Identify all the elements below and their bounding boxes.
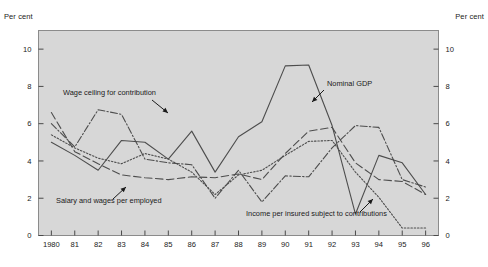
annotation-label-income-insured: Income per insured subject to contributi…	[246, 209, 387, 218]
y-tick-label-right: 8	[446, 82, 450, 91]
y-tick-label-left: 0	[27, 231, 31, 240]
y-tick-label-right: 6	[446, 119, 450, 128]
x-tick-label: 84	[141, 240, 149, 249]
chart-svg: 0246810 0246810 198081828384858687888990…	[0, 0, 488, 267]
x-tick-label: 90	[281, 240, 289, 249]
x-tick-label: 85	[164, 240, 172, 249]
x-tick-label: 86	[187, 240, 195, 249]
x-tick-label: 92	[328, 240, 336, 249]
x-tick-label: 91	[304, 240, 312, 249]
x-tick-label: 89	[258, 240, 266, 249]
y-tick-label-left: 10	[23, 45, 31, 54]
annotation-label-nominal-gdp: Nominal GDP	[327, 79, 372, 88]
x-tick-label: 88	[234, 240, 242, 249]
x-tick-label: 1980	[43, 240, 60, 249]
y-tick-label-left: 8	[27, 82, 31, 91]
y-tick-label-right: 2	[446, 194, 450, 203]
chart-root: Per cent Per cent 0246810 0246810 198081…	[0, 0, 488, 267]
y-tick-label-left: 6	[27, 119, 31, 128]
y-tick-label-left: 2	[27, 194, 31, 203]
y-tick-label-right: 0	[446, 231, 450, 240]
x-tick-label: 87	[211, 240, 219, 249]
x-tick-label: 81	[71, 240, 79, 249]
y-tick-label-left: 4	[27, 157, 31, 166]
y-tick-label-right: 10	[446, 45, 454, 54]
x-tick-label: 93	[351, 240, 359, 249]
x-tick-label: 95	[398, 240, 406, 249]
y-tick-label-right: 4	[446, 157, 450, 166]
x-tick-label: 96	[421, 240, 429, 249]
x-tick-label: 94	[375, 240, 383, 249]
x-tick-label: 83	[117, 240, 125, 249]
annotation-label-salary-wages: Salary and wages per employed	[56, 196, 162, 205]
x-tick-label: 82	[94, 240, 102, 249]
annotation-label-wage-ceiling: Wage ceiling for contribution	[63, 88, 156, 97]
